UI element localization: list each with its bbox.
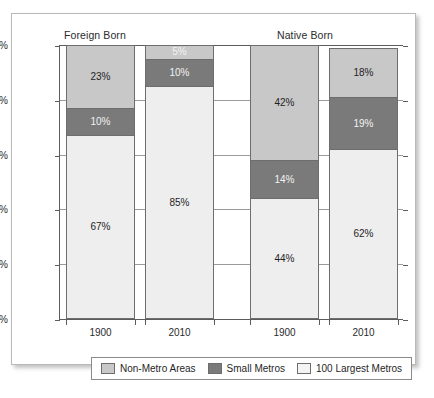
xtick-mark xyxy=(398,320,399,325)
bar-segment-label: 14% xyxy=(274,175,294,185)
xtick-label-foreign-2010: 2010 xyxy=(168,327,190,338)
ytick-mark-80 xyxy=(55,101,60,102)
bar-segment-label: 5% xyxy=(172,47,186,57)
bar-segment-label: 10% xyxy=(90,117,110,127)
bar-segment-non-metro[interactable]: 18% xyxy=(329,48,398,97)
ytick-label-0: 0% xyxy=(0,314,8,325)
group-title-foreign-born: Foreign Born xyxy=(64,29,126,41)
xtick-mark xyxy=(135,320,136,325)
xtick-mark xyxy=(319,320,320,325)
chart-figure: Foreign Born Native Born 100% 80% 60% xyxy=(0,0,434,398)
ytick-mark-right-0 xyxy=(403,320,408,321)
bar-segment-largest-metros[interactable]: 44% xyxy=(250,198,319,319)
legend-item-non-metro-areas[interactable]: Non-Metro Areas xyxy=(101,363,196,374)
bar-segment-small-metros[interactable]: 10% xyxy=(145,59,214,86)
legend-label-largest-metros: 100 Largest Metros xyxy=(316,363,402,374)
ytick-mark-60 xyxy=(55,156,60,157)
ytick-label-60: 60% xyxy=(0,150,8,161)
ytick-mark-40 xyxy=(55,210,60,211)
bar-segment-label: 19% xyxy=(353,119,373,129)
ytick-label-80: 80% xyxy=(0,95,8,106)
figure-frame: Foreign Born Native Born 100% 80% 60% xyxy=(11,13,416,365)
xtick-label-native-2010: 2010 xyxy=(352,327,374,338)
bar-segment-largest-metros[interactable]: 62% xyxy=(329,149,398,319)
ytick-mark-0 xyxy=(55,320,60,321)
bar-segment-small-metros[interactable]: 19% xyxy=(329,97,398,149)
bar-segment-non-metro[interactable]: 42% xyxy=(250,45,319,160)
ytick-label-40: 40% xyxy=(0,204,8,215)
xtick-mark xyxy=(214,320,215,325)
bar-native-born-2010[interactable]: 62% 19% 18% xyxy=(329,45,398,319)
ytick-label-100: 100% xyxy=(0,40,8,51)
xtick-mark xyxy=(250,320,251,325)
bar-segment-largest-metros[interactable]: 67% xyxy=(66,135,135,319)
gridline-0: 0% xyxy=(60,319,403,320)
xtick-label-foreign-1900: 1900 xyxy=(89,327,111,338)
ytick-mark-right-40 xyxy=(403,210,408,211)
bar-segment-label: 85% xyxy=(169,198,189,208)
bar-segment-non-metro[interactable]: 23% xyxy=(66,45,135,108)
bar-segment-label: 42% xyxy=(274,98,294,108)
legend-label-non-metro: Non-Metro Areas xyxy=(120,363,196,374)
legend-swatch-largest-metros-icon xyxy=(297,363,311,374)
xtick-mark xyxy=(329,320,330,325)
bar-segment-label: 23% xyxy=(90,72,110,82)
legend-swatch-non-metro-icon xyxy=(101,363,115,374)
bar-segment-non-metro[interactable]: 5% xyxy=(145,45,214,59)
xtick-mark xyxy=(145,320,146,325)
ytick-mark-right-60 xyxy=(403,156,408,157)
bar-segment-label: 62% xyxy=(353,229,373,239)
ytick-mark-right-80 xyxy=(403,101,408,102)
bar-segment-label: 67% xyxy=(90,222,110,232)
xtick-label-native-1900: 1900 xyxy=(273,327,295,338)
ytick-mark-right-100 xyxy=(403,46,408,47)
legend-item-small-metros[interactable]: Small Metros xyxy=(208,363,285,374)
ytick-label-20: 20% xyxy=(0,259,8,270)
bar-foreign-born-1900[interactable]: 67% 10% 23% xyxy=(66,45,135,319)
bar-segment-largest-metros[interactable]: 85% xyxy=(145,86,214,319)
bar-foreign-born-2010[interactable]: 85% 10% 5% xyxy=(145,45,214,319)
legend-swatch-small-metros-icon xyxy=(208,363,222,374)
ytick-mark-right-20 xyxy=(403,265,408,266)
bar-segment-small-metros[interactable]: 14% xyxy=(250,160,319,198)
legend-item-100-largest-metros[interactable]: 100 Largest Metros xyxy=(297,363,402,374)
bar-native-born-1900[interactable]: 44% 14% 42% xyxy=(250,45,319,319)
bar-segment-label: 10% xyxy=(169,68,189,78)
xtick-mark xyxy=(66,320,67,325)
ytick-mark-20 xyxy=(55,265,60,266)
plot-area: 100% 80% 60% 40% 20% xyxy=(59,45,403,320)
chart-legend: Non-Metro Areas Small Metros 100 Largest… xyxy=(91,357,412,380)
bar-segment-label: 18% xyxy=(353,68,373,78)
legend-label-small-metros: Small Metros xyxy=(227,363,285,374)
group-title-native-born: Native Born xyxy=(277,29,333,41)
ytick-mark-100 xyxy=(55,46,60,47)
bar-segment-small-metros[interactable]: 10% xyxy=(66,108,135,135)
bar-segment-label: 44% xyxy=(274,254,294,264)
